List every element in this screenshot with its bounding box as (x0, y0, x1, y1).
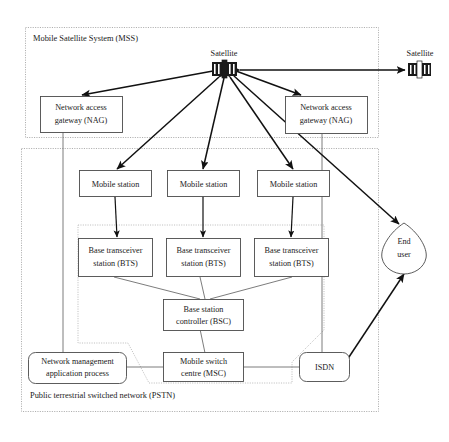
diagram-canvas: Mobile Satellite System (MSS) Public ter… (0, 0, 449, 442)
bts-1-line1: Base transceiver (89, 246, 143, 255)
bsc-line1: Base station (184, 305, 224, 314)
node-satellite-main[interactable]: Satellite (211, 49, 238, 78)
arrow-satellite-to-ms-2 (203, 78, 224, 169)
end-user-line2: user (397, 250, 411, 259)
node-nag-right[interactable]: Network access gateway (NAG) (286, 97, 368, 134)
bts-2-line2: station (BTS) (181, 259, 226, 268)
arrow-ms3-to-bts3 (291, 197, 293, 237)
nag-left-line1: Network access (55, 103, 107, 112)
bts-3-line1: Base transceiver (265, 246, 319, 255)
node-nag-left[interactable]: Network access gateway (NAG) (41, 97, 123, 133)
msc-line2: centre (MSC) (181, 369, 226, 378)
arrow-satellite-to-ms-3 (230, 77, 293, 169)
arrow-satellite-to-nag-right (236, 71, 301, 95)
ms-3-label: Mobile station (270, 180, 318, 189)
zone-pstn-label: Public terrestrial switched network (PST… (30, 391, 175, 400)
node-network-management[interactable]: Network management application process (29, 353, 127, 384)
node-isdn[interactable]: ISDN (300, 353, 350, 382)
msc-line1: Mobile switch (180, 357, 227, 366)
node-end-user[interactable]: End user (382, 223, 427, 274)
ms-2-label: Mobile station (180, 180, 228, 189)
link-bts2-to-bsc (200, 277, 205, 299)
link-bsc-to-msc (200, 329, 205, 353)
nmap-line2: application process (46, 369, 109, 378)
node-satellite-right[interactable]: Satellite (407, 49, 434, 78)
node-bts-3[interactable]: Base transceiver station (BTS) (255, 239, 329, 277)
node-bts-1[interactable]: Base transceiver station (BTS) (79, 239, 153, 277)
zone-mss-label: Mobile Satellite System (MSS) (33, 34, 138, 43)
ms-1-label: Mobile station (92, 180, 140, 189)
nag-right-line1: Network access (300, 103, 352, 112)
end-user-line1: End (397, 237, 410, 246)
arrow-isdn-to-end-user (347, 274, 404, 360)
node-ms-3[interactable]: Mobile station (258, 171, 330, 197)
arrow-satellite-to-ms-1 (117, 77, 219, 169)
isdn-label: ISDN (315, 363, 334, 372)
node-ms-1[interactable]: Mobile station (80, 171, 152, 197)
network-architecture-diagram: Mobile Satellite System (MSS) Public ter… (0, 0, 449, 442)
link-bts3-to-bsc (210, 277, 292, 299)
satellite-icon (408, 61, 431, 78)
node-bsc[interactable]: Base station controller (BSC) (164, 300, 244, 331)
node-msc[interactable]: Mobile switch centre (MSC) (164, 353, 244, 382)
arrow-satellite-to-nag-left (82, 71, 213, 95)
satellite-main-label: Satellite (211, 49, 238, 58)
link-bts1-to-bsc (114, 277, 200, 299)
bts-1-line2: station (BTS) (93, 259, 138, 268)
nag-left-line2: gateway (NAG) (55, 116, 108, 125)
satellite-icon (212, 60, 237, 78)
bts-2-line1: Base transceiver (177, 246, 231, 255)
nmap-line1: Network management (41, 357, 114, 366)
node-ms-2[interactable]: Mobile station (168, 171, 240, 197)
arrow-ms1-to-bts1 (115, 197, 117, 237)
nag-right-line2: gateway (NAG) (300, 116, 353, 125)
bsc-line2: controller (BSC) (176, 317, 231, 326)
satellite-right-label: Satellite (407, 49, 434, 58)
node-bts-2[interactable]: Base transceiver station (BTS) (167, 239, 241, 277)
bts-3-line2: station (BTS) (269, 259, 314, 268)
